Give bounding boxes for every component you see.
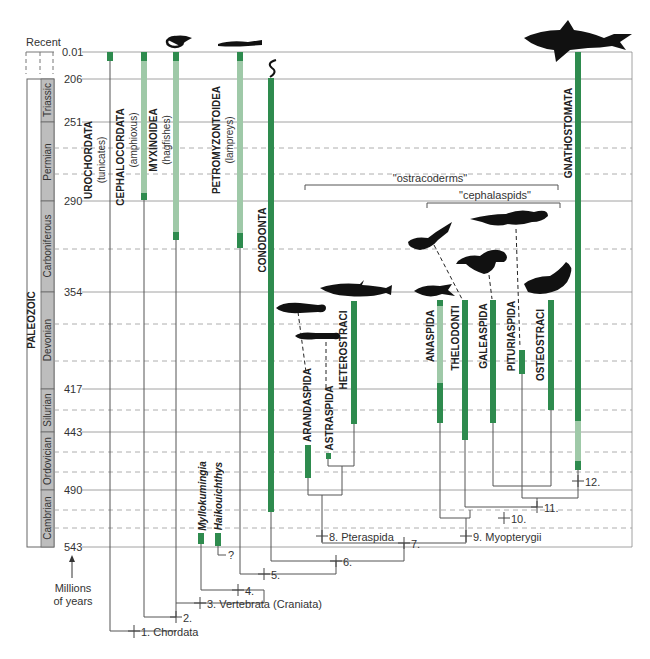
svg-text:251: 251 bbox=[64, 116, 82, 128]
node-4-label: 4. bbox=[245, 585, 254, 597]
node-9-label: 9. Myopterygii bbox=[473, 531, 541, 543]
period-carboniferous: Carboniferous bbox=[42, 215, 53, 278]
taxon-petromyzontoidea: PETROMYZONTOIDEA bbox=[211, 86, 222, 194]
node-1-label: 1. Chordata bbox=[141, 626, 199, 638]
heterostracan-silhouette-icon bbox=[320, 280, 392, 297]
node-unknown-label: ? bbox=[228, 549, 234, 561]
galeaspid-silhouette-icon bbox=[456, 250, 507, 274]
node-6-label: 6. bbox=[343, 556, 352, 568]
taxon-galeaspida: GALEASPIDA bbox=[478, 303, 489, 369]
taxon-anaspida: ANASPIDA bbox=[425, 310, 436, 362]
period-silurian: Silurian bbox=[42, 393, 53, 426]
node-7-label: 7. bbox=[411, 538, 420, 550]
recent-box bbox=[26, 52, 54, 74]
svg-text:290: 290 bbox=[64, 195, 82, 207]
svg-text:543: 543 bbox=[64, 541, 82, 553]
taxon-pituriaspida: PITURIASPIDA bbox=[506, 301, 517, 372]
taxon-astraspida: ASTRASPIDA bbox=[324, 385, 335, 450]
svg-text:417: 417 bbox=[64, 383, 82, 395]
taxon-myxinoidea: MYXINOIDEA bbox=[148, 108, 159, 171]
taxon-heterostraci: HETEROSTRACI bbox=[338, 310, 349, 389]
taxon-thelodonti: THELODONTI bbox=[450, 305, 461, 370]
units-arrow bbox=[69, 555, 75, 578]
taxon-gnathostomata: GNATHOSTOMATA bbox=[563, 88, 574, 178]
ostracoderms-label: "ostracoderms" bbox=[393, 172, 468, 184]
units-label-1: Millions bbox=[55, 582, 92, 594]
node-2-label: 2. bbox=[183, 612, 192, 624]
svg-text:206: 206 bbox=[64, 73, 82, 85]
taxon-urochordata-common: (tunicates) bbox=[96, 137, 107, 184]
era-label: PALEOZOIC bbox=[26, 291, 37, 349]
lamprey-silhouette-icon bbox=[218, 40, 262, 47]
phylogeny-diagram: Recent PALEOZOIC Triassic Permian Carbon… bbox=[0, 0, 650, 659]
taxon-osteostraci: OSTEOSTRACI bbox=[535, 309, 546, 381]
astraspid-silhouette-icon bbox=[295, 332, 340, 339]
cephalaspids-label: "cephalaspids" bbox=[459, 189, 531, 201]
node-8-label: 8. Pteraspida bbox=[329, 531, 395, 543]
period-ordovician: Ordovician bbox=[42, 437, 53, 485]
osteostracan-silhouette-icon bbox=[524, 262, 571, 294]
period-devonian: Devonian bbox=[42, 319, 53, 361]
taxon-urochordata: UROCHORDATA bbox=[83, 121, 94, 199]
hagfish-silhouette-icon bbox=[167, 36, 192, 48]
svg-text:354: 354 bbox=[64, 286, 82, 298]
node-11-label: 11. bbox=[544, 502, 558, 514]
thelodont-silhouette-icon bbox=[408, 222, 452, 250]
taxon-myllokumingia: Myllokumingia bbox=[197, 461, 208, 531]
arandaspid-silhouette-icon bbox=[276, 303, 326, 313]
taxon-haikouichthys: Haikouichthys bbox=[213, 461, 224, 530]
svg-text:490: 490 bbox=[64, 484, 82, 496]
period-triassic: Triassic bbox=[42, 83, 53, 117]
svg-text:0.01: 0.01 bbox=[62, 46, 83, 58]
taxon-petromyzontoidea-common: (lampreys) bbox=[224, 116, 235, 163]
taxon-myxinoidea-common: (hagfishes) bbox=[161, 115, 172, 164]
taxon-arandaspida: ARANDASPIDA bbox=[302, 368, 313, 442]
node-3-label: 3. Vertebrata (Craniata) bbox=[207, 598, 322, 610]
period-permian: Permian bbox=[42, 143, 53, 180]
node-labels: 1. Chordata 2. 3. Vertebrata (Craniata) … bbox=[141, 476, 600, 638]
conodont-silhouette-icon bbox=[270, 60, 276, 77]
recent-label: Recent bbox=[26, 36, 61, 48]
pituriaspid-silhouette-icon bbox=[470, 210, 548, 225]
node-10-label: 10. bbox=[511, 513, 526, 525]
period-cambrian: Cambrian bbox=[42, 496, 53, 539]
taxon-cephalocordata-common: (amphioxus) bbox=[128, 112, 139, 167]
node-12-label: 12. bbox=[585, 476, 600, 488]
axis-ticks: 0.01 206 251 290 354 417 443 490 543 bbox=[62, 46, 83, 553]
taxon-conodonta: CONODONTA bbox=[257, 208, 268, 273]
taxon-cephalocordata: CEPHALOCORDATA bbox=[115, 108, 126, 205]
node-5-label: 5. bbox=[271, 569, 280, 581]
svg-text:443: 443 bbox=[64, 426, 82, 438]
units-label-2: of years bbox=[53, 595, 93, 607]
anaspid-silhouette-icon bbox=[414, 284, 455, 296]
